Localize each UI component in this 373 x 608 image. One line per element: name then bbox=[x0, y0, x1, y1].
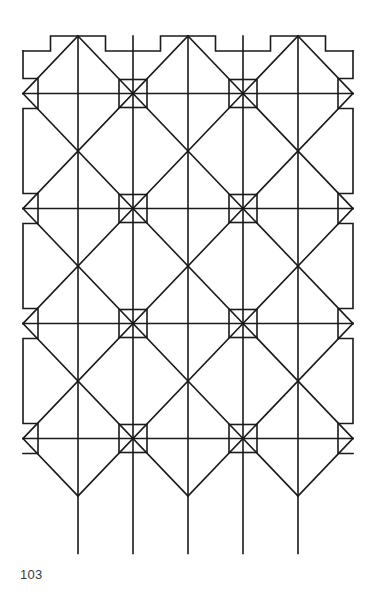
diagonal-line bbox=[188, 324, 353, 497]
diagonal-line bbox=[188, 36, 353, 209]
page-number: 103 bbox=[20, 568, 43, 581]
border-right bbox=[338, 51, 353, 454]
pattern-figure bbox=[0, 0, 373, 608]
pattern-lines bbox=[23, 36, 353, 554]
pattern-diagram bbox=[0, 0, 373, 608]
diagonal-line bbox=[298, 439, 353, 497]
diagonal-line bbox=[23, 324, 188, 497]
border-left bbox=[23, 51, 38, 454]
diagonal-line bbox=[23, 36, 188, 209]
diagonal-line bbox=[23, 439, 78, 497]
